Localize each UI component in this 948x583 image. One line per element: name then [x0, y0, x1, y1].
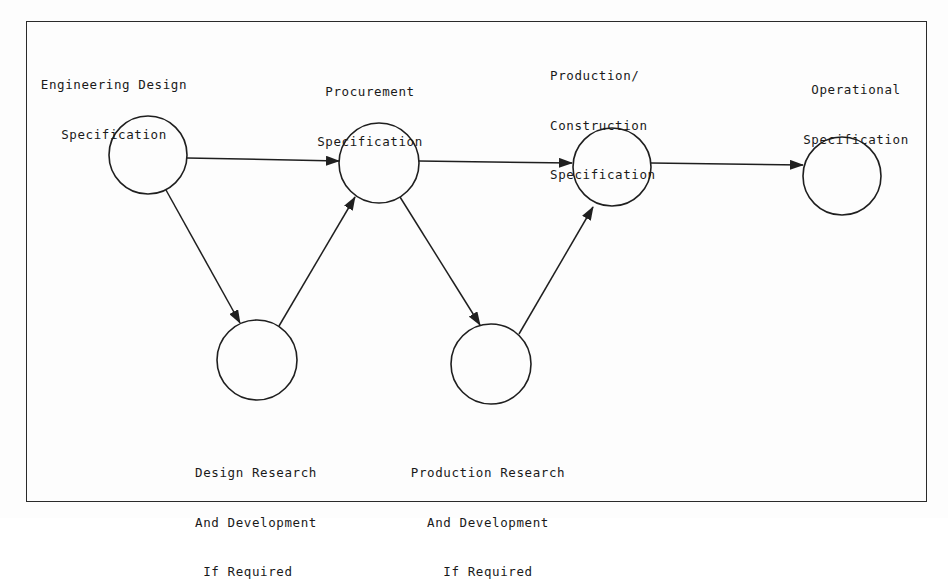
node-design-rd	[217, 320, 297, 400]
label-line: Specification	[295, 134, 445, 151]
label-line: If Required	[195, 564, 317, 581]
label-line: And Development	[195, 515, 317, 532]
edge-production-to-operational	[651, 163, 803, 165]
label-line: Production Research	[393, 465, 583, 482]
label-line: Construction	[550, 118, 656, 135]
edge-design-rd-to-procurement	[279, 197, 355, 326]
label-line: Production/	[550, 68, 656, 85]
edge-production-rd-to-production	[519, 207, 593, 334]
label-engineering-design: Engineering Design Specification	[34, 44, 194, 176]
label-line: Specification	[550, 167, 656, 184]
edge-procurement-to-production-rd	[400, 197, 480, 325]
label-line: Engineering Design	[34, 77, 194, 94]
label-production-construction: Production/ Construction Specification	[550, 35, 656, 217]
label-line: And Development	[393, 515, 583, 532]
node-production-rd	[451, 324, 531, 404]
label-line: Specification	[786, 132, 926, 149]
label-line: Procurement	[295, 84, 445, 101]
label-procurement: Procurement Specification	[295, 51, 445, 183]
label-line: Specification	[34, 127, 194, 144]
label-design-rd: Design Research And Development If Requi…	[195, 432, 317, 583]
label-line: Design Research	[195, 465, 317, 482]
label-operational: Operational Specification	[786, 49, 926, 181]
label-line: If Required	[393, 564, 583, 581]
edge-engdesign-to-design-rd	[166, 190, 240, 323]
label-production-rd: Production Research And Development If R…	[393, 432, 583, 583]
label-line: Operational	[786, 82, 926, 99]
